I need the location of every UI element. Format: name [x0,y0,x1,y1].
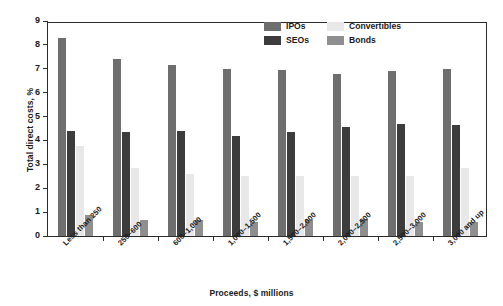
bar-group [433,23,488,236]
bar-seos [342,127,351,236]
y-tick-label: 8 [22,39,40,49]
x-axis-tick-labels: Less than 250250–600600–1,0001,000–1,500… [47,241,487,287]
bar-seos [232,136,241,236]
legend-swatch [264,36,281,45]
legend-label: Bonds [349,35,376,45]
bar-chart: Total direct costs, % 0123456789 Less th… [0,0,503,306]
legend-swatch [264,22,281,31]
plot-area: 0123456789 [47,22,487,237]
y-tick-mark [43,21,48,22]
bars-layer [48,23,486,236]
bar-seos [287,132,296,236]
bar-seos [67,131,76,236]
bar-seos [452,125,461,236]
bar-seos [397,124,406,236]
bar-ipos [443,69,452,236]
y-tick-label: 7 [22,63,40,73]
y-tick-label: 3 [22,158,40,168]
y-tick-label: 2 [22,182,40,192]
legend-item-convertibles: Convertibles [327,21,401,31]
y-tick-label: 5 [22,111,40,121]
legend-item-ipos: IPOs [264,21,309,31]
legend-label: IPOs [286,21,306,31]
bar-group [213,23,268,236]
legend-swatch [327,36,344,45]
bar-ipos [113,59,122,236]
y-tick-label: 4 [22,134,40,144]
legend-swatch [327,22,344,31]
y-axis-title: Total direct costs, % [25,30,35,230]
legend-item-bonds: Bonds [327,35,401,45]
bar-ipos [278,70,287,236]
legend-label: SEOs [286,35,309,45]
bar-ipos [223,69,232,236]
bar-seos [177,131,186,236]
y-tick-label: 0 [22,230,40,240]
bar-group [268,23,323,236]
y-tick-label: 1 [22,206,40,216]
bar-ipos [333,74,342,236]
legend-item-seos: SEOs [264,35,309,45]
bar-ipos [168,65,177,236]
legend-label: Convertibles [349,21,401,31]
x-axis-title: Proceeds, $ millions [0,288,503,298]
bar-group [103,23,158,236]
y-tick-label: 6 [22,87,40,97]
bar-group [323,23,378,236]
bar-group [378,23,433,236]
bar-group [158,23,213,236]
chart-legend: IPOsConvertiblesSEOsBonds [264,21,401,45]
bar-ipos [58,38,67,236]
bar-ipos [388,71,397,236]
y-tick-label: 9 [22,15,40,25]
bar-group [48,23,103,236]
bar-seos [122,132,131,236]
